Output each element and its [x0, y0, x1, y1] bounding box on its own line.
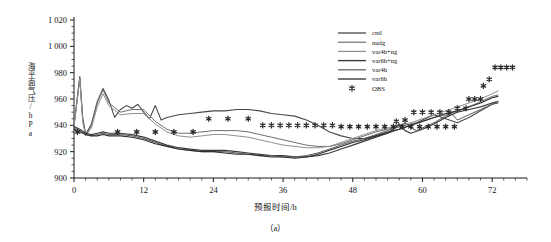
obs-marker [452, 124, 457, 129]
legend-label-OBS: OBS [372, 85, 385, 92]
obs-marker [304, 123, 309, 128]
obs-marker [206, 116, 211, 121]
obs-marker [330, 123, 335, 128]
obs-marker [246, 116, 251, 121]
obs-marker [467, 96, 472, 101]
y-tick-label: 1 000 [48, 41, 67, 51]
obs-marker [394, 119, 399, 124]
obs-marker [493, 65, 498, 70]
x-tick-label: 48 [349, 185, 358, 195]
obs-marker [481, 83, 486, 88]
obs-marker [504, 65, 509, 70]
obs-marker [487, 77, 492, 82]
obs-marker [226, 116, 231, 121]
obs-series [75, 65, 514, 135]
y-tick-label: 1 020 [48, 15, 67, 25]
obs-marker [429, 110, 434, 115]
y-tick-label: 980 [54, 68, 67, 78]
figure-panel: 9009209409609801 0001 0200122436486072cn… [0, 0, 551, 242]
legend-label-nudg: nudg [372, 39, 386, 46]
x-tick-label: 24 [209, 185, 218, 195]
y-tick-label: 920 [54, 147, 67, 157]
series-line-cntl [74, 77, 498, 139]
y-tick-label: 900 [54, 173, 67, 183]
y-tick-label: 940 [54, 120, 67, 130]
x-tick-label: 60 [418, 185, 427, 195]
x-axis-title: 预报时间/h [0, 200, 551, 212]
obs-marker [365, 124, 370, 129]
obs-marker [191, 129, 196, 134]
obs-marker [269, 123, 274, 128]
obs-marker [295, 123, 300, 128]
obs-marker [443, 124, 448, 129]
y-tick-label: 960 [54, 94, 67, 104]
obs-marker [412, 110, 417, 115]
obs-marker [374, 124, 379, 129]
x-tick-label: 72 [488, 185, 497, 195]
obs-marker [261, 123, 266, 128]
obs-marker [153, 129, 158, 134]
obs-marker [278, 123, 283, 128]
legend-label-var6h+ng: var6h+ng [372, 57, 398, 64]
x-tick-label: 0 [72, 185, 76, 195]
obs-marker [356, 124, 361, 129]
obs-marker [499, 65, 504, 70]
obs-marker [420, 110, 425, 115]
obs-marker [403, 117, 408, 122]
legend-label-cntl: cntl [372, 29, 382, 36]
series-line-var6h [74, 96, 498, 158]
obs-marker [350, 85, 355, 91]
obs-marker [287, 123, 292, 128]
y-axis-title: 海平面气压/hPa [24, 62, 36, 138]
obs-marker [348, 124, 353, 129]
obs-marker [435, 124, 440, 129]
obs-marker [510, 65, 514, 70]
obs-marker [339, 124, 344, 129]
legend-label-var4h: var4h [372, 66, 388, 73]
legend-label-var6h: var6h [372, 75, 388, 82]
obs-marker [134, 129, 139, 134]
legend-label-var4h+ng: var4h+ng [372, 48, 398, 55]
figure-caption: （a） [0, 221, 551, 233]
x-tick-label: 36 [279, 185, 288, 195]
legend: cntlnudgvar4h+ngvar6h+ngvar4hvar6hOBS [338, 29, 398, 91]
x-tick-label: 12 [139, 185, 148, 195]
